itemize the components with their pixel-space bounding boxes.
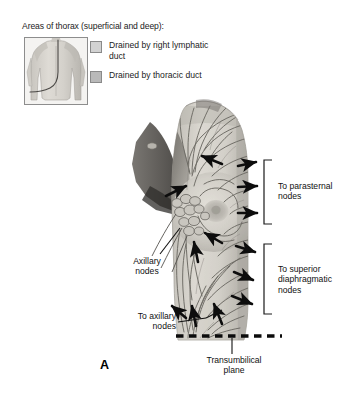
label-transumbilical-plane: Transumbilical plane xyxy=(192,355,276,376)
label-to-axillary-nodes: To axillary nodes xyxy=(110,311,176,332)
figure-letter: A xyxy=(100,358,109,372)
supraclavicular-node xyxy=(147,143,157,149)
thorax-body xyxy=(147,99,256,342)
figure-root: Areas of thorax (superficial and deep): xyxy=(0,0,356,405)
bracket-diaphragmatic xyxy=(264,244,272,314)
label-to-superior-diaphragmatic-nodes: To superior diaphragmatic nodes xyxy=(278,264,332,295)
brackets xyxy=(264,160,272,314)
label-to-parasternal-nodes: To parasternal nodes xyxy=(278,181,332,202)
main-illustration xyxy=(0,0,356,405)
label-axillary-nodes: Axillary nodes xyxy=(117,256,177,277)
arrow-parasternal-2 xyxy=(238,186,257,187)
bracket-parasternal xyxy=(264,160,272,224)
